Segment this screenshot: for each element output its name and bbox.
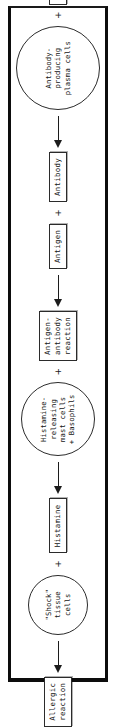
- arrow-icon-stage4-to-stage5: [54, 639, 63, 673]
- plus-operator: +: [54, 5, 63, 27]
- arrow-icon-stage1-to-stage2: [54, 114, 63, 148]
- allergic-reaction-flowchart: Antigen + Antibody- producing plasma cel…: [13, 13, 103, 673]
- plus-operator: +: [54, 553, 63, 575]
- node-plasma-cells: Antibody- producing plasma cells: [16, 26, 100, 110]
- box-antibody: Antibody: [49, 152, 67, 202]
- node-histamine: Histamine: [49, 498, 67, 553]
- arrow-icon-stage3-to-stage4: [54, 460, 63, 494]
- box-allergic-reaction: Allergic reaction: [44, 677, 72, 727]
- node-antigen-1: Antigen: [49, 0, 67, 5]
- circle-shock-tissue-cells: "Shock" tissue cells: [28, 575, 88, 635]
- node-antigen-2: Antigen: [49, 224, 67, 269]
- arrow-icon-stage2-to-stage3: [54, 273, 63, 307]
- plus-operator: +: [54, 202, 63, 224]
- box-antigen-antibody-reaction: Antigen- antibody reaction: [39, 311, 76, 361]
- node-mast-cells-basophils: Histamine- releasing mast cells + Basoph…: [21, 382, 95, 456]
- node-allergic-reaction: Allergic reaction: [44, 677, 72, 727]
- node-shock-tissue-cells: "Shock" tissue cells: [28, 575, 88, 635]
- circle-histamine-releasing-mast-cells-basophils: Histamine- releasing mast cells + Basoph…: [21, 382, 95, 456]
- plus-operator: +: [54, 361, 63, 383]
- node-antibody: Antibody: [49, 152, 67, 202]
- page-frame: Antigen + Antibody- producing plasma cel…: [8, 6, 108, 682]
- box-antigen-2: Antigen: [49, 224, 67, 269]
- box-antigen-1: Antigen: [49, 0, 67, 5]
- node-antigen-antibody-reaction: Antigen- antibody reaction: [39, 311, 76, 361]
- box-histamine: Histamine: [49, 498, 67, 553]
- circle-antibody-producing-plasma-cells: Antibody- producing plasma cells: [16, 26, 100, 110]
